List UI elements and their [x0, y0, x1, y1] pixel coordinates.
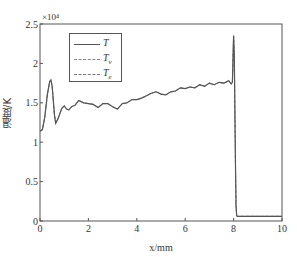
x-tick-label: 4 [134, 223, 139, 234]
y-tick-label: 2.5 [26, 19, 39, 30]
legend: T Tv Te [69, 33, 122, 82]
x-tick-label: 10 [277, 223, 287, 234]
x-tick-label: 6 [183, 223, 188, 234]
y-axis-multiplier: ×10⁴ [42, 12, 59, 22]
x-tick-label: 0 [38, 223, 43, 234]
legend-label: Te [103, 67, 112, 81]
y-tick-label: 1 [33, 137, 38, 148]
ticks: 024681000.511.522.5 [26, 19, 288, 235]
legend-item-T: T [74, 37, 120, 51]
y-tick-label: 0 [33, 216, 38, 227]
legend-label: T [103, 37, 109, 51]
legend-item-Tv: Tv [74, 52, 120, 66]
x-tick-label: 8 [231, 223, 236, 234]
legend-item-Te: Te [74, 67, 120, 81]
y-tick-label: 1.5 [26, 97, 39, 108]
legend-label: Tv [103, 52, 112, 66]
y-axis-label: 温度/K [2, 98, 16, 128]
y-tick-label: 2 [33, 58, 38, 69]
x-tick-label: 2 [86, 223, 91, 234]
line-chart: 024681000.511.522.5 x/mm ×10⁴ [0, 0, 297, 257]
legend-swatch-dashed [74, 74, 100, 75]
legend-swatch-solid [74, 44, 100, 45]
y-tick-label: 0.5 [26, 176, 39, 187]
legend-swatch-dashdot [74, 59, 100, 60]
x-axis-label: x/mm [149, 242, 173, 253]
